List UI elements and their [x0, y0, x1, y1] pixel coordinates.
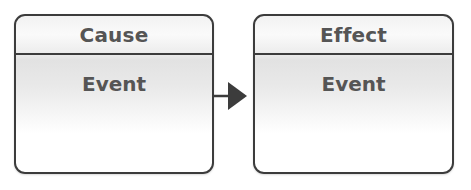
cause-node: Cause Event: [14, 14, 214, 174]
effect-node-header: Effect: [255, 16, 452, 55]
cause-node-body: Event: [16, 72, 212, 96]
effect-node-body: Event: [255, 72, 452, 96]
cause-node-header: Cause: [16, 16, 212, 55]
effect-node: Effect Event: [253, 14, 454, 174]
arrow-connector-icon: [214, 82, 248, 110]
